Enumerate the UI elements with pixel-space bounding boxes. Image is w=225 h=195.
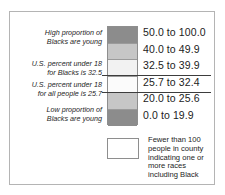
annotation-low-proportion: Low proportion of Blacks are young bbox=[16, 106, 102, 123]
annotation-black-line-2: for Blacks is 32.5 bbox=[12, 69, 102, 78]
legend-swatch bbox=[108, 110, 137, 127]
footnote-swatch bbox=[107, 138, 139, 159]
annotation-all-line-2: for all people is 25.7 bbox=[12, 90, 102, 99]
legend-value-label: 32.5 to 39.9 bbox=[143, 57, 215, 74]
legend-value-column: 50.0 to 100.0 40.0 to 49.9 32.5 to 39.9 … bbox=[143, 24, 215, 123]
annotation-high-line-2: Blacks are young bbox=[16, 38, 102, 47]
legend-value-label: 50.0 to 100.0 bbox=[143, 24, 215, 41]
legend-swatch bbox=[108, 44, 137, 61]
legend-swatch bbox=[108, 93, 137, 110]
leader-line-black-benchmark bbox=[102, 75, 211, 76]
annotation-low-line-2: Blacks are young bbox=[16, 115, 102, 124]
annotation-all-people-benchmark: U.S. percent under 18 for all people is … bbox=[12, 81, 102, 98]
annotation-high-proportion: High proportion of Blacks are young bbox=[16, 29, 102, 46]
legend-swatch bbox=[108, 27, 137, 44]
legend-swatch bbox=[108, 77, 137, 94]
footnote-text: Fewer than 100 people in county indicati… bbox=[148, 136, 210, 180]
leader-line-all-benchmark bbox=[102, 92, 211, 93]
legend-value-label: 40.0 to 49.9 bbox=[143, 41, 215, 58]
legend-value-label: 0.0 to 19.9 bbox=[143, 107, 215, 124]
legend-body: High proportion of Blacks are young U.S.… bbox=[10, 12, 214, 184]
map-legend: High proportion of Blacks are young U.S.… bbox=[9, 11, 215, 185]
annotation-black-benchmark: U.S. percent under 18 for Blacks is 32.5 bbox=[12, 60, 102, 77]
footnote-line: including Black bbox=[148, 171, 210, 180]
